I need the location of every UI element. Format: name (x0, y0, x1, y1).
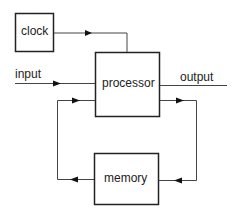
processor-label: processor (102, 76, 155, 90)
input-label: input (15, 67, 41, 81)
memory-to-processor-edge (58, 98, 96, 183)
processor-to-memory-edge (159, 98, 197, 184)
memory-label: memory (104, 171, 147, 185)
input-edge (15, 81, 95, 87)
output-label: output (180, 70, 213, 84)
clock-label: clock (21, 24, 48, 38)
clock-edge (54, 30, 127, 52)
